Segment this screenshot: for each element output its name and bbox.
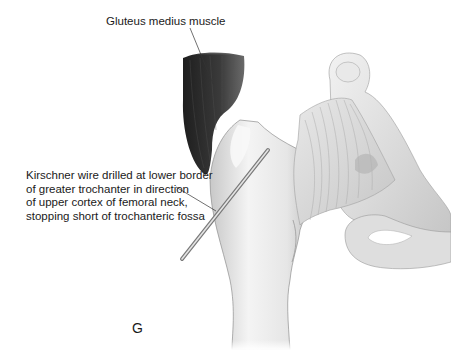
kirschner-wire-label: Kirschner wire drilled at lower border o… <box>26 169 213 223</box>
kirschner-wire-label-line-2: of greater trochanter in direction <box>26 183 213 197</box>
kirschner-wire-label-line-1: Kirschner wire drilled at lower border <box>26 169 213 183</box>
kirschner-wire-label-line-3: of upper cortex of femoral neck, <box>26 196 213 210</box>
kirschner-wire-label-line-4: stopping short of trochanteric fossa <box>26 210 213 224</box>
gluteus-medius-label: Gluteus medius muscle <box>106 15 226 29</box>
panel-letter: G <box>132 322 143 336</box>
